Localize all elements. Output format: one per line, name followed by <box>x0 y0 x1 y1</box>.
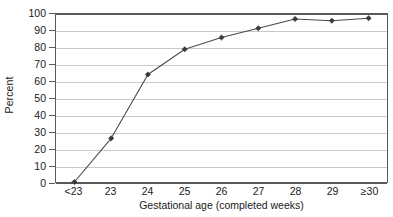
y-axis-title-label: Percent <box>3 77 15 114</box>
x-axis-tick-label: ≥30 <box>361 185 378 197</box>
y-axis-tick-label: 30 <box>16 127 46 138</box>
y-axis-tick-label: 100 <box>16 8 46 19</box>
y-axis-tick-mark <box>49 183 55 184</box>
x-axis-tick-label: 28 <box>290 185 302 197</box>
x-axis-title: Gestational age (completed weeks) <box>55 199 388 211</box>
y-axis-tick-label: 10 <box>16 161 46 172</box>
y-axis-tick-label: 40 <box>16 110 46 121</box>
x-axis-tick-label: 24 <box>142 185 154 197</box>
x-axis-tick-label: 29 <box>327 185 339 197</box>
data-point-marker <box>366 16 371 21</box>
y-axis-tick-label: 50 <box>16 93 46 104</box>
y-axis-tick-label: 90 <box>16 25 46 36</box>
x-axis-tick-labels: <2323242526272829≥30 <box>55 185 388 199</box>
y-axis-tick-labels: 0102030405060708090100 <box>16 8 46 184</box>
y-axis-tick-label: 80 <box>16 42 46 53</box>
data-point-marker <box>292 16 297 21</box>
chart-container: Percent 0102030405060708090100 <23232425… <box>0 0 393 217</box>
line-series <box>56 14 387 182</box>
x-axis-tick-label: 27 <box>253 185 265 197</box>
y-axis-tick-label: 0 <box>16 178 46 189</box>
x-axis-tick-label: 23 <box>105 185 117 197</box>
plot-area <box>55 13 388 183</box>
data-point-marker <box>256 26 261 31</box>
series-line <box>74 18 368 182</box>
y-axis-tick-label: 70 <box>16 59 46 70</box>
gridline <box>56 183 387 184</box>
x-axis-tick-label: 26 <box>216 185 228 197</box>
data-point-marker <box>219 35 224 40</box>
data-point-marker <box>329 18 334 23</box>
y-axis-tick-label: 20 <box>16 144 46 155</box>
x-axis-tick-label: 25 <box>179 185 191 197</box>
x-axis-tick-label: <23 <box>65 185 83 197</box>
y-axis-tick-label: 60 <box>16 76 46 87</box>
